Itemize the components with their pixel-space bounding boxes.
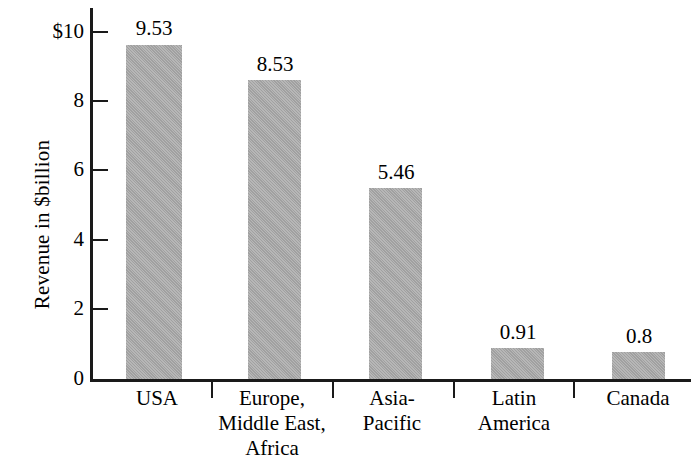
x-category-label-asia-pacific: Asia- Pacific xyxy=(336,386,448,436)
bar-europe-middle-east-africa[interactable] xyxy=(248,80,301,379)
bar-latin-america[interactable] xyxy=(491,348,544,379)
y-tick-label-8: 8 xyxy=(14,90,84,111)
y-tick-label-6: 6 xyxy=(14,159,84,180)
x-category-label-canada: Canada xyxy=(582,386,694,411)
y-tick-mark-2 xyxy=(93,308,108,310)
y-tick-mark-6 xyxy=(93,169,108,171)
bar-asia-pacific[interactable] xyxy=(369,188,422,379)
x-category-label-usa: USA xyxy=(112,386,202,411)
y-tick-label-0: 0 xyxy=(14,368,84,389)
bar-canada[interactable] xyxy=(612,352,665,379)
y-axis-line xyxy=(90,8,93,382)
y-tick-mark-4 xyxy=(93,239,108,241)
x-axis-divider-2 xyxy=(332,382,334,398)
bar-value-canada: 0.8 xyxy=(599,326,679,347)
bar-chart: Revenue in $billion $10 8 6 4 2 0 9.53 8… xyxy=(0,0,697,461)
y-tick-label-4: 4 xyxy=(14,229,84,250)
y-tick-mark-8 xyxy=(93,100,108,102)
bar-value-latin-america: 0.91 xyxy=(478,322,558,343)
bar-value-asia-pacific: 5.46 xyxy=(356,162,436,183)
x-category-label-latin-america: Latin America xyxy=(458,386,570,436)
bar-value-europe-middle-east-africa: 8.53 xyxy=(235,54,315,75)
bar-value-usa: 9.53 xyxy=(114,18,194,39)
y-tick-label-2: 2 xyxy=(14,298,84,319)
y-tick-label-10: $10 xyxy=(14,21,84,42)
y-tick-mark-10 xyxy=(93,31,108,33)
x-category-label-europe-middle-east-africa: Europe, Middle East, Africa xyxy=(212,386,332,461)
x-axis-line xyxy=(90,379,691,382)
x-axis-divider-4 xyxy=(573,382,575,398)
bar-usa[interactable] xyxy=(126,45,182,379)
x-axis-divider-3 xyxy=(453,382,455,398)
